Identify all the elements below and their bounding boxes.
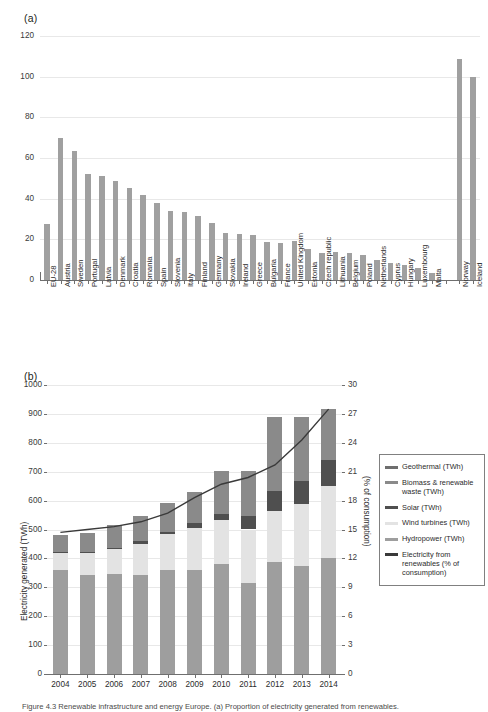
legend-item[interactable]: Solar (TWh) [385, 503, 480, 512]
panel-b-bar-segment [294, 417, 309, 481]
panel-a-x-tick-label: Latvia [105, 267, 113, 287]
panel-b-x-tickmark [114, 675, 115, 678]
panel-a-x-tickmark [391, 281, 392, 284]
panel-a-x-tick-label: Finland [201, 262, 209, 287]
legend-item[interactable]: Wind turbines (TWh) [385, 518, 480, 527]
legend-item-label: Electricity from renewables (% of consum… [402, 550, 480, 578]
panel-a-x-tickmark [377, 281, 378, 284]
panel-a-x-tick-label: Croatia [132, 263, 140, 287]
panel-a-x-tickmark [473, 281, 474, 284]
panel-b-bar-segment [241, 516, 256, 529]
panel-a-x-tickmark [267, 281, 268, 284]
panel-b-y-tick-label: 800 [16, 439, 42, 447]
panel-a-x-tickmark [171, 281, 172, 284]
panel-a-x-tick-label: EU-28 [50, 265, 58, 287]
panel-b-bar-segment [107, 549, 122, 574]
panel-b-bar-segment [214, 471, 229, 514]
panel-a-x-tickmark [432, 281, 433, 284]
panel-a-y-axis [40, 272, 41, 281]
panel-a-gridline [40, 239, 480, 240]
panel-a-x-tick-label: France [284, 263, 292, 287]
panel-b-bar-segment [241, 471, 256, 517]
panel-b-bar-segment [267, 491, 282, 511]
panel-a-x-tick-label: Luxembourg [421, 245, 429, 287]
panel-a-x-tick-label: Bulgaria [270, 259, 278, 287]
panel-a-x-tickmark [336, 281, 337, 284]
panel-a-bar [457, 59, 462, 280]
panel-a-bar [182, 212, 187, 280]
panel-b-y2-tick-label: 6 [348, 612, 370, 620]
panel-a-x-tick-label: Belgium [352, 260, 360, 287]
panel-a-x-tick-label: United Kingdom [297, 233, 305, 287]
panel-a-x-tick-label: Malta [435, 268, 443, 287]
panel-b-bar-segment [133, 544, 148, 576]
panel-b-x-tickmark [329, 675, 330, 678]
legend-swatch-icon [385, 506, 398, 509]
panel-b-bar-segment [321, 409, 336, 460]
panel-b-bar-segment [267, 417, 282, 491]
panel-b-x-tickmark [248, 675, 249, 678]
panel-b-y2-tick-label: 21 [348, 468, 370, 476]
panel-a-x-tick-label: Ireland [242, 264, 250, 287]
panel-b-right-axis [342, 385, 343, 675]
panel-a-x-tick-label: Spain [160, 268, 168, 287]
legend-item-label: Solar (TWh) [402, 503, 442, 512]
panel-a-y-tick-label: 40 [8, 195, 34, 203]
figure-page: (a) 020406080100120EU-28AustriaSwedenPor… [0, 0, 488, 712]
legend-item[interactable]: Hydropower (TWh) [385, 534, 480, 543]
panel-b-gridline [47, 414, 342, 415]
panel-a-x-tickmark [198, 281, 199, 284]
panel-a-x-tickmark [446, 281, 447, 284]
panel-b-x-tickmark [141, 675, 142, 678]
panel-a-gridline [40, 36, 480, 37]
panel-a-bar [58, 138, 63, 280]
panel-b-gridline [47, 385, 342, 386]
panel-b-bar-segment [133, 541, 148, 543]
panel-a-x-tick-label: Austria [64, 263, 72, 287]
panel-b-bar-segment [107, 525, 122, 547]
panel-b-y-tick-label: 1000 [16, 381, 42, 389]
panel-a-x-tick-label: Czech republic [325, 237, 333, 287]
panel-a-x-tick-label: Slovakia [229, 258, 237, 287]
panel-a-gridline [40, 199, 480, 200]
panel-a-plot-area: 020406080100120EU-28AustriaSwedenPortuga… [40, 36, 480, 280]
panel-a-y-tick-label: 120 [8, 32, 34, 40]
panel-b-y2-tick-label: 9 [348, 583, 370, 591]
panel-b-bar-segment [294, 504, 309, 565]
panel-b-y2-tick-label: 30 [348, 381, 370, 389]
panel-b-bar-segment [80, 575, 95, 674]
legend-swatch-icon [385, 553, 398, 556]
panel-b-y-tick-label: 100 [16, 641, 42, 649]
panel-b-bar-segment [133, 516, 148, 541]
panel-a-x-tick-label: Norway [462, 261, 470, 287]
panel-b-chart: (b) 010020030040050060070080090010000369… [0, 366, 488, 712]
panel-b-x-tickmark [221, 675, 222, 678]
panel-b-bar-segment [294, 481, 309, 504]
panel-a-x-tickmark [212, 281, 213, 284]
panel-a-x-tickmark [116, 281, 117, 284]
panel-b-bar-segment [214, 520, 229, 563]
legend-item[interactable]: Geothermal (TWh) [385, 462, 480, 471]
panel-a-x-tickmark [47, 281, 48, 284]
panel-b-y2-tick-label: 3 [348, 641, 370, 649]
legend-item-label: Biomass & renewable waste (TWh) [402, 478, 480, 496]
panel-b-x-tick-label: 2014 [313, 680, 345, 689]
legend-item[interactable]: Electricity from renewables (% of consum… [385, 550, 480, 578]
panel-b-y2-tick-label: 27 [348, 410, 370, 418]
panel-a-x-tick-label: Cyprus [394, 263, 402, 287]
panel-b-x-tickmark [302, 675, 303, 678]
panel-b-bar-segment [53, 553, 68, 570]
panel-b-y2-axis-title: (% of consumption) [362, 476, 371, 547]
legend-swatch-icon [385, 466, 398, 469]
panel-b-bar-segment [321, 486, 336, 558]
panel-a-gridline [40, 158, 480, 159]
panel-a-bar [470, 77, 475, 280]
panel-b-bar-segment [241, 530, 256, 583]
panel-a-x-tick-label: Netherlands [380, 246, 388, 287]
panel-a-gridline [40, 77, 480, 78]
legend-item[interactable]: Biomass & renewable waste (TWh) [385, 478, 480, 496]
panel-b-bar-segment [187, 528, 202, 570]
legend-swatch-icon [385, 522, 398, 525]
legend-swatch-icon [385, 481, 398, 484]
panel-a-x-tick-label: Portugal [91, 259, 99, 287]
